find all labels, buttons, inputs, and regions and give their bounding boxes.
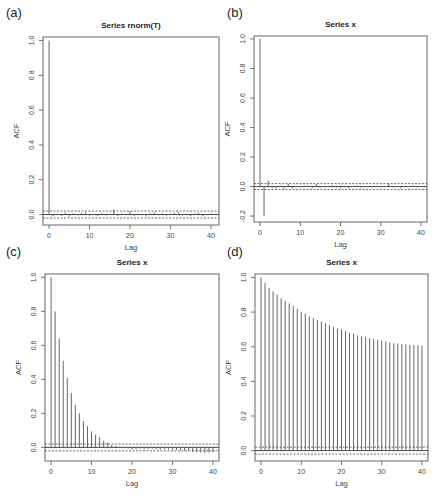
panel-label: (b): [227, 5, 243, 20]
x-axis-label: Lag: [126, 479, 139, 488]
x-tick-label: 30: [169, 468, 177, 475]
y-tick-label: 0.8: [28, 70, 35, 80]
y-tick-label: 0.4: [239, 123, 246, 133]
plot-frame: [43, 37, 219, 225]
y-axis-label: ACF: [224, 360, 233, 375]
y-tick-label: 0.6: [30, 340, 37, 350]
x-tick-label: 10: [86, 232, 94, 239]
x-axis-label: Lag: [125, 243, 138, 252]
y-tick-label: 1.0: [30, 272, 37, 282]
x-tick-label: 0: [47, 232, 51, 239]
acf-panel-d: (d)Series x0.00.20.40.60.81.0010203040La…: [224, 244, 428, 488]
x-tick-label: 20: [337, 229, 345, 236]
chart-title: Series rnorm(T): [101, 21, 161, 30]
x-tick-label: 0: [259, 468, 263, 475]
y-tick-label: 0.6: [28, 105, 35, 115]
x-tick-label: 30: [378, 468, 386, 475]
y-tick-label: 0.0: [28, 210, 35, 220]
y-tick-label: 0.2: [240, 411, 247, 421]
y-tick-label: 1.0: [239, 34, 246, 44]
y-tick-label: 0.8: [240, 307, 247, 317]
y-tick-label: 0.2: [28, 175, 35, 185]
acf-panels-svg: (a)Series rnorm(T)0.00.20.40.60.81.00102…: [0, 0, 445, 502]
x-axis-label: Lag: [335, 479, 348, 488]
acf-panel-a: (a)Series rnorm(T)0.00.20.40.60.81.00102…: [6, 5, 219, 252]
chart-title: Series x: [117, 258, 148, 267]
chart-title: Series x: [326, 258, 357, 267]
x-tick-label: 10: [296, 229, 304, 236]
y-tick-label: 0.6: [240, 342, 247, 352]
y-tick-label: 0.0: [239, 182, 246, 192]
panel-label: (a): [6, 5, 22, 20]
y-tick-label: -0.2: [239, 210, 246, 222]
y-tick-label: 0.0: [30, 442, 37, 452]
y-tick-label: 0.4: [240, 376, 247, 386]
x-tick-label: 0: [258, 229, 262, 236]
x-tick-label: 40: [417, 229, 425, 236]
acf-panel-b: (b)Series x-0.20.00.20.40.60.81.00102030…: [223, 5, 427, 249]
y-tick-label: 0.8: [30, 306, 37, 316]
x-tick-label: 40: [207, 232, 215, 239]
plot-frame: [254, 36, 427, 222]
x-tick-label: 10: [88, 468, 96, 475]
y-tick-label: 0.2: [239, 152, 246, 162]
y-axis-label: ACF: [12, 123, 21, 138]
y-axis-label: ACF: [223, 121, 232, 136]
y-tick-label: 0.8: [239, 64, 246, 74]
x-tick-label: 40: [418, 468, 426, 475]
y-tick-label: 1.0: [28, 36, 35, 46]
acf-panel-c: (c)Series x0.00.20.40.60.81.0010203040La…: [6, 244, 219, 488]
y-tick-label: 0.4: [30, 374, 37, 384]
acf-figure: (a)Series rnorm(T)0.00.20.40.60.81.00102…: [0, 0, 445, 502]
y-tick-label: 0.0: [240, 446, 247, 456]
x-tick-label: 0: [49, 468, 53, 475]
x-tick-label: 30: [167, 232, 175, 239]
x-tick-label: 20: [338, 468, 346, 475]
x-tick-label: 30: [377, 229, 385, 236]
y-tick-label: 0.2: [30, 408, 37, 418]
x-tick-label: 10: [297, 468, 305, 475]
panel-label: (d): [227, 244, 243, 259]
y-axis-label: ACF: [14, 360, 23, 375]
chart-title: Series x: [325, 20, 356, 29]
y-tick-label: 1.0: [240, 272, 247, 282]
x-tick-label: 20: [126, 232, 134, 239]
panel-label: (c): [6, 244, 21, 259]
y-tick-label: 0.6: [239, 93, 246, 103]
x-tick-label: 40: [209, 468, 217, 475]
y-tick-label: 0.4: [28, 140, 35, 150]
x-tick-label: 20: [128, 468, 136, 475]
x-axis-label: Lag: [334, 240, 347, 249]
